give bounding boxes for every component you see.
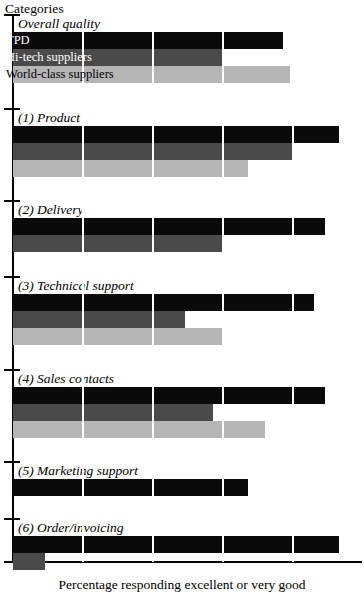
bar-group-bars bbox=[0, 126, 364, 177]
bar-group-bars bbox=[0, 294, 364, 345]
bar-row bbox=[0, 235, 364, 252]
legend-label-hi-tech-suppliers: Hi-tech suppliers bbox=[6, 49, 92, 66]
bar-hi-tech-suppliers bbox=[13, 553, 45, 570]
bar-row bbox=[0, 421, 364, 438]
bar-hi-tech-suppliers bbox=[13, 235, 223, 252]
bar-group-bars: TPD Hi-tech suppliers World-class suppli… bbox=[0, 32, 364, 83]
bar-hi-tech-suppliers bbox=[13, 143, 293, 160]
bar-row bbox=[0, 294, 364, 311]
bar-tpd bbox=[13, 387, 325, 404]
bar-row bbox=[0, 252, 364, 269]
bar-tpd bbox=[13, 294, 314, 311]
group-label: (2) Delivery bbox=[18, 202, 84, 217]
bar-tpd bbox=[13, 218, 325, 235]
bar-hi-tech-suppliers bbox=[13, 311, 185, 328]
bar-row bbox=[0, 328, 364, 345]
group-label: (5) Marketing support bbox=[18, 463, 138, 478]
bar-tpd bbox=[13, 126, 339, 143]
bar-row: World-class suppliers bbox=[0, 66, 364, 83]
group-label: Overall quality bbox=[18, 16, 100, 31]
bar-world-class-suppliers bbox=[13, 421, 265, 438]
bar-row bbox=[0, 479, 364, 496]
bar-row bbox=[0, 218, 364, 235]
group-label: (6) Order/invoicing bbox=[18, 520, 124, 535]
bar-row bbox=[0, 160, 364, 177]
plot-area: Overall quality TPD Hi-tech suppliers Wo… bbox=[0, 14, 364, 562]
bar-tpd bbox=[13, 32, 283, 49]
bar-row: TPD bbox=[0, 32, 364, 49]
bar-group-bars bbox=[0, 536, 364, 570]
bar-row bbox=[0, 553, 364, 570]
legend-label-tpd: TPD bbox=[6, 32, 30, 49]
bar-row: Hi-tech suppliers bbox=[0, 49, 364, 66]
bar-row bbox=[0, 536, 364, 553]
bar-group-bars bbox=[0, 479, 364, 496]
bar-world-class-suppliers bbox=[13, 160, 248, 177]
bar-row bbox=[0, 143, 364, 160]
x-axis-title: Percentage responding excellent or very … bbox=[0, 577, 364, 593]
group-label: (3) Technical support bbox=[18, 278, 134, 293]
legend-label-world-class-suppliers: World-class suppliers bbox=[6, 66, 114, 83]
bar-tpd bbox=[13, 479, 248, 496]
bar-row bbox=[0, 126, 364, 143]
bar-hi-tech-suppliers bbox=[13, 404, 213, 421]
bar-chart: Categories Overall quality TPD Hi-tech s… bbox=[0, 0, 364, 603]
bar-row bbox=[0, 311, 364, 328]
bar-group-bars bbox=[0, 387, 364, 438]
bar-group-bars bbox=[0, 218, 364, 269]
group-label: (1) Product bbox=[18, 110, 80, 125]
bar-row bbox=[0, 404, 364, 421]
bar-tpd bbox=[13, 536, 339, 553]
bar-row bbox=[0, 387, 364, 404]
bar-world-class-suppliers bbox=[13, 328, 223, 345]
group-label: (4) Sales contacts bbox=[18, 371, 114, 386]
